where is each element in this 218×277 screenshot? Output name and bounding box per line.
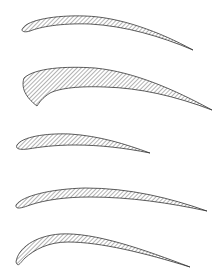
airfoil-profile-4 (16, 188, 207, 211)
airfoil-profile-5 (16, 234, 190, 267)
airfoil-profile-2 (23, 67, 212, 110)
airfoil-diagram (0, 0, 218, 277)
airfoil-profile-1 (22, 16, 193, 50)
airfoil-profile-3 (17, 134, 150, 153)
profile-group (16, 16, 212, 267)
